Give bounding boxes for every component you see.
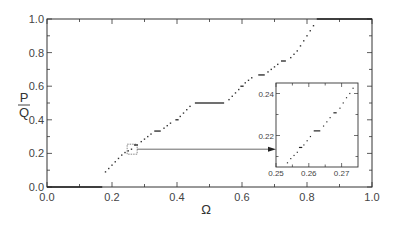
x-axis-title: Ω — [201, 202, 211, 217]
data-point — [235, 92, 236, 93]
data-point — [150, 133, 151, 134]
data-point — [118, 158, 119, 159]
data-point — [111, 164, 112, 165]
arrow-head-icon — [268, 147, 276, 152]
inset-x-tick-label: 0.27 — [334, 169, 350, 178]
inset-data-point — [293, 155, 294, 156]
inset-data-point — [287, 162, 288, 163]
data-point — [147, 136, 148, 137]
x-tick-label: 0.8 — [299, 191, 314, 203]
inset-y-tick-label: 0.24 — [258, 90, 274, 99]
y-tick-label: 0.4 — [29, 114, 44, 126]
y-tick-label: 0.6 — [29, 80, 44, 92]
data-point — [180, 116, 181, 117]
y-axis-title-numerator: P — [20, 90, 29, 105]
data-point — [300, 45, 301, 46]
data-point — [170, 122, 171, 123]
inset-x-tick-label: 0.26 — [301, 169, 317, 178]
data-point — [271, 69, 272, 70]
data-point — [115, 161, 116, 162]
inset-x-tick-label: 0.25 — [268, 169, 284, 178]
data-point — [121, 154, 122, 155]
y-axis-title-denominator: Q — [19, 105, 29, 120]
x-tick-label: 0.6 — [234, 191, 249, 203]
data-point — [105, 171, 106, 172]
inset-data-point — [323, 125, 324, 126]
y-tick-label: 0.0 — [29, 181, 44, 193]
data-point — [238, 89, 239, 90]
data-point — [124, 152, 125, 153]
x-tick-label: 0.2 — [104, 191, 119, 203]
inset-data-point — [310, 136, 311, 137]
data-point — [186, 109, 187, 110]
y-tick-label: 1.0 — [29, 13, 44, 25]
inset-y-tick-label: 0.22 — [258, 132, 274, 141]
inset-data-point — [303, 144, 304, 145]
inset-data-point — [346, 97, 347, 98]
data-point — [128, 150, 129, 151]
data-point — [167, 125, 168, 126]
inset-data-point — [349, 93, 350, 94]
data-point — [251, 77, 252, 78]
zoom-indicator — [127, 144, 276, 154]
data-point — [189, 106, 190, 107]
inset-data-point — [339, 108, 340, 109]
y-tick-label: 0.8 — [29, 47, 44, 59]
data-point — [313, 25, 314, 26]
inset-chart: 0.250.260.270.220.24 — [258, 83, 358, 178]
data-point — [183, 112, 184, 113]
data-point — [267, 71, 268, 72]
data-point — [303, 40, 304, 41]
x-tick-label: 0.4 — [169, 191, 184, 203]
inset-data-point — [326, 121, 327, 122]
data-point — [306, 35, 307, 36]
data-point — [297, 50, 298, 51]
data-point — [274, 66, 275, 67]
x-tick-label: 1.0 — [364, 191, 379, 203]
data-point — [277, 64, 278, 65]
inset-data-point — [343, 102, 344, 103]
data-point — [163, 128, 164, 129]
inset-frame — [276, 83, 358, 167]
data-point — [248, 80, 249, 81]
devils-staircase-chart: 0.00.20.40.60.81.00.00.20.40.60.81.0 0.2… — [0, 0, 398, 225]
inset-data-point — [352, 88, 353, 89]
inset-data-point — [290, 158, 291, 159]
data-point — [245, 82, 246, 83]
inset-data-point — [307, 140, 308, 141]
data-point — [232, 96, 233, 97]
inset-data-point — [330, 117, 331, 118]
data-point — [310, 30, 311, 31]
data-point — [293, 54, 294, 55]
data-point — [108, 168, 109, 169]
data-point — [131, 149, 132, 150]
data-point — [228, 99, 229, 100]
data-point — [290, 57, 291, 58]
y-tick-label: 0.2 — [29, 147, 44, 159]
data-point — [144, 138, 145, 139]
inset-data-point — [297, 152, 298, 153]
data-point — [141, 141, 142, 142]
